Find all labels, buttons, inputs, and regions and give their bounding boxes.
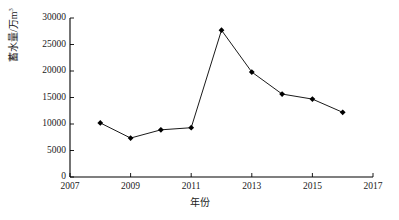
y-axis-title-superscript: 3: [7, 8, 14, 11]
y-tick-label: 25000: [42, 40, 66, 50]
data-point-marker: [158, 127, 164, 133]
data-point-marker: [279, 91, 285, 97]
x-axis-ticks: [70, 173, 373, 177]
data-point-marker: [219, 27, 225, 33]
y-tick-label: 15000: [42, 93, 66, 103]
y-tick-label: 30000: [42, 13, 66, 23]
x-tick-label: 2013: [227, 182, 277, 192]
x-tick-label: 2007: [45, 182, 95, 192]
y-tick-label: 20000: [42, 66, 66, 76]
data-point-marker: [340, 109, 346, 115]
data-point-marker: [310, 96, 316, 102]
x-tick-label: 2009: [106, 182, 156, 192]
data-point-marker: [188, 125, 194, 131]
data-series-line: [100, 30, 342, 138]
chart-container: 050001000015000200002500030000 200720092…: [0, 0, 399, 220]
y-tick-label: 10000: [42, 119, 66, 129]
y-axis-title: 蓄水量/万m3: [8, 0, 19, 62]
x-tick-label: 2015: [287, 182, 337, 192]
y-tick-label: 5000: [47, 146, 66, 156]
chart-axes: [70, 18, 373, 177]
y-axis-title-text: 蓄水量/万m: [8, 11, 19, 62]
y-axis-ticks: [70, 18, 74, 177]
data-point-marker: [97, 120, 103, 126]
x-tick-label: 2011: [166, 182, 216, 192]
x-tick-label: 2017: [348, 182, 398, 192]
data-point-markers: [97, 27, 345, 141]
data-point-marker: [128, 135, 134, 141]
x-axis-title: 年份: [0, 198, 399, 208]
